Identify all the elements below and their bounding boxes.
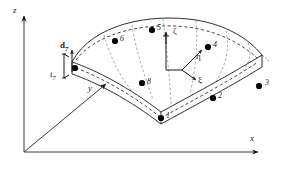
- ruling-2: [132, 25, 153, 100]
- node-marker-8: [139, 80, 145, 86]
- top-surface-near-edge-right: [161, 55, 262, 112]
- node-marker-4: [205, 44, 211, 50]
- node-label-4: 4: [213, 41, 217, 49]
- director-vector-subscript: 7: [65, 45, 68, 52]
- ruling-3: [163, 19, 171, 104]
- director-and-thickness-annotation: [62, 50, 72, 78]
- node-label-1: 1: [166, 112, 170, 120]
- node-marker-5: [149, 27, 155, 33]
- right-end-face-back-edge: [262, 55, 269, 62]
- node-marker-1: [158, 115, 164, 121]
- top-surface-far-edge: [72, 18, 262, 62]
- thickness-bracket-tick-bottom: [64, 75, 69, 78]
- y-axis-label: y: [88, 84, 92, 93]
- mid-curve-near-left: [76, 68, 161, 118]
- director-vector-label: d7: [60, 41, 68, 52]
- thickness-bracket: [62, 54, 66, 78]
- xi-axis-arrow: [182, 70, 196, 80]
- node-label-8: 8: [147, 78, 151, 86]
- top-surface-near-edge: [72, 62, 161, 112]
- diagram-canvas: [0, 0, 284, 169]
- node-marker-3: [256, 83, 262, 89]
- node-label-6: 6: [120, 35, 124, 43]
- node-label-2: 2: [218, 92, 222, 100]
- ruling-5: [216, 31, 228, 82]
- thickness-subscript: 7: [53, 74, 56, 81]
- node-marker-2: [210, 95, 216, 101]
- eta-axis-label: η: [196, 52, 201, 61]
- y-axis-line: [24, 84, 106, 152]
- x-axis-label: x: [250, 134, 254, 143]
- shell-element-figure: z x y ζ η ξ d7 t7 1 2 3 4 5 6 8: [0, 0, 284, 169]
- thickness-bracket-tick-top: [64, 54, 69, 57]
- xi-axis-label: ξ: [198, 76, 202, 85]
- zeta-axis-label: ζ: [173, 27, 177, 36]
- z-axis-label: z: [13, 6, 17, 15]
- node-marker-6: [112, 38, 118, 44]
- thickness-label: t7: [50, 70, 56, 81]
- node-label-5: 5: [157, 24, 161, 32]
- shell-element-body: [72, 18, 269, 124]
- node-label-3: 3: [265, 79, 269, 87]
- mid-surface-dashed-curves: [76, 26, 258, 118]
- surface-ruling-lines: [104, 19, 250, 104]
- node-marker-7: [72, 65, 78, 71]
